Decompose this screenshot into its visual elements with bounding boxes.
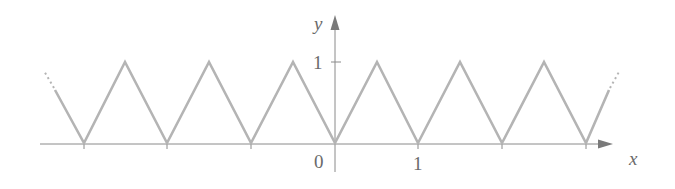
triangle-wave-curve	[55, 62, 609, 143]
triangle-wave-chart: y 1 0 1 x	[0, 0, 675, 189]
y-axis	[331, 15, 340, 172]
y-tick-label-1: 1	[313, 52, 323, 73]
origin-label: 0	[314, 151, 324, 172]
x-axis-arrow-icon	[598, 140, 613, 149]
y-axis-label: y	[312, 13, 323, 34]
x-axis	[40, 140, 613, 149]
x-axis-label: x	[628, 148, 638, 169]
x-tick-label-1: 1	[413, 153, 423, 174]
y-axis-arrow-icon	[331, 15, 340, 30]
